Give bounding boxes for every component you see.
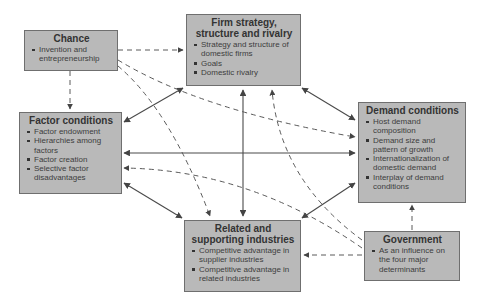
edge-chance-related [118,66,210,216]
node-title: Chance [30,33,113,44]
list-item: Invention and entrepreneurship [30,45,113,64]
edge-factor-related [124,183,182,218]
node-related-supporting: Related and supporting industries Compet… [184,220,301,292]
node-demand-conditions: Demand conditions Host demand compositio… [358,102,466,203]
node-title: Demand conditions [364,105,461,116]
list-item: Domestic rivalry [192,68,296,77]
node-title: Related and supporting industries [190,223,296,245]
list-item: Internationalization of domestic demand [364,154,461,173]
list-item: Competitive advantage in related industr… [190,265,296,284]
list-item: Strategy and structure of domestic firms [192,40,296,59]
list-item: Demand size and pattern of growth [364,136,461,155]
edge-government-firm [272,90,362,240]
node-chance: Chance Invention and entrepreneurship [24,30,118,71]
list-item: Host demand composition [364,117,461,136]
list-item: Interplay of demand conditions [364,173,461,192]
list-item: Hierarchies among factors [25,136,117,155]
list-item: As an influence on the four major determ… [370,246,455,274]
node-title: Factor conditions [25,115,117,126]
node-government: Government As an influence on the four m… [364,231,460,281]
edge-firm-factor [124,88,183,122]
node-factor-conditions: Factor conditions Factor endowment Hiera… [19,112,122,194]
edge-demand-related [302,183,355,218]
list-item: Factor endowment [25,127,117,136]
edge-firm-demand [302,88,355,120]
list-item: Factor creation [25,155,117,164]
node-firm-strategy: Firm strategy, structure and rivalry Str… [186,14,301,86]
list-item: Competitive advantage in supplier indust… [190,246,296,265]
list-item: Goals [192,59,296,68]
list-item: Selective factor disadvantages [25,164,117,183]
node-title: Firm strategy, structure and rivalry [192,17,296,39]
node-title: Government [370,234,455,245]
